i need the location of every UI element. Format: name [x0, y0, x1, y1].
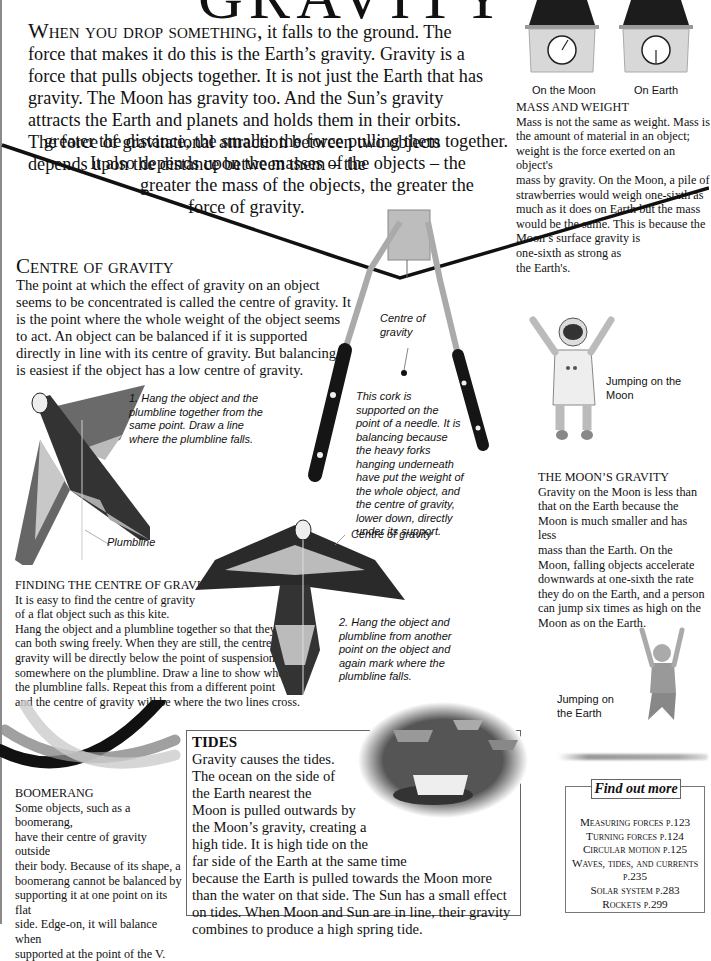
intro-lead: When you drop something, [28, 18, 262, 43]
find-out-more-link[interactable]: Solar system p.283 [565, 884, 705, 898]
tides-section: TIDES Gravity causes the tides. The ocea… [192, 734, 522, 938]
mass-weight-heading: MASS AND WEIGHT [516, 100, 711, 115]
find-out-more-link[interactable]: Measuring forces p.123 [565, 816, 705, 830]
find-out-more-link[interactable]: Circular motion p.125 [565, 843, 705, 857]
strawberry-scales-illustration [525, 0, 705, 80]
intro-line: force of gravity. [188, 196, 304, 218]
boomerang-illustration [0, 700, 190, 780]
boy-jumping-illustration [630, 625, 700, 735]
jumping-moon-label: Jumping on the Moon [606, 375, 709, 402]
scale-moon [525, 0, 599, 72]
ground-shadow [558, 754, 708, 760]
forks-centre-label: Centre of gravity [380, 312, 425, 339]
plumbline-label: Plumbline [107, 536, 155, 550]
find-out-more-link[interactable]: Rockets p.299 [565, 898, 705, 912]
find-out-more-link[interactable]: Turning forces p.124 [565, 830, 705, 844]
kite-centre-of-gravity-label: Centre of gravity [351, 528, 432, 542]
find-out-more-list: Measuring forces p.123 Turning forces p.… [565, 816, 705, 911]
boomerang-section: BOOMERANG Some objects, such as a boomer… [15, 786, 185, 961]
boomerang-heading: BOOMERANG [15, 786, 185, 801]
centre-of-gravity-dot [401, 370, 407, 376]
kite-step-1-caption: 1. Hang the object and the plumbline tog… [129, 392, 299, 446]
tides-heading: TIDES [192, 734, 522, 751]
intro-line: greater the distance, the smaller the fo… [44, 130, 508, 152]
scale-earth [619, 0, 693, 72]
astronaut-jumping-illustration [525, 310, 615, 450]
find-out-more-title: Find out more [591, 779, 681, 799]
scale-earth-label: On Earth [634, 84, 678, 98]
moon-gravity-heading: THE MOON’S GRAVITY [538, 470, 708, 485]
intro-line: greater the mass of the objects, the gre… [140, 174, 474, 196]
jumping-earth-label: Jumping on the Earth [557, 693, 614, 720]
intro-line: It also depends upon the masses of the o… [90, 152, 466, 174]
kite-step-2-caption: 2. Hang the object and plumbline from an… [339, 616, 469, 684]
moon-gravity-section: THE MOON’S GRAVITY Gravity on the Moon i… [538, 470, 708, 631]
scale-moon-label: On the Moon [532, 84, 596, 98]
mass-weight-section: MASS AND WEIGHT Mass is not the same as … [516, 100, 711, 275]
find-out-more-link[interactable]: p.235 [565, 870, 705, 884]
find-out-more-link[interactable]: Waves, tides, and currents [565, 857, 705, 871]
